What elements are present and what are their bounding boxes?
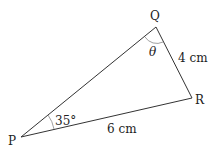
vertex-label-r: R bbox=[195, 93, 205, 107]
angle-label-p: 35° bbox=[55, 114, 76, 128]
triangle-pqr bbox=[21, 27, 192, 137]
angle-label-q: θ bbox=[149, 45, 157, 59]
triangle-diagram: P Q R 35° θ 4 cm 6 cm bbox=[0, 0, 217, 149]
side-label-qr: 4 cm bbox=[178, 51, 208, 65]
angle-arc-p bbox=[48, 115, 54, 129]
angle-arc-q bbox=[145, 37, 163, 43]
side-label-pr: 6 cm bbox=[107, 122, 137, 136]
vertex-label-p: P bbox=[8, 134, 16, 148]
vertex-label-q: Q bbox=[150, 9, 160, 23]
